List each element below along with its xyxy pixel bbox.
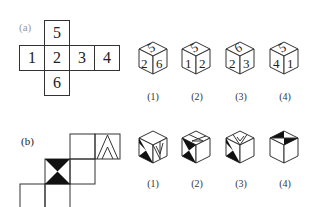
caption-b-2: (2) (182, 178, 212, 189)
cube-b-2 (180, 129, 212, 165)
cube-b-1 (137, 129, 169, 165)
cube-b-3 (224, 129, 256, 165)
cube-b-4 (268, 129, 300, 165)
caption-b-4: (4) (270, 178, 300, 189)
cube-net-b (0, 0, 318, 207)
caption-b-3: (3) (226, 178, 256, 189)
caption-b-1: (1) (138, 178, 168, 189)
